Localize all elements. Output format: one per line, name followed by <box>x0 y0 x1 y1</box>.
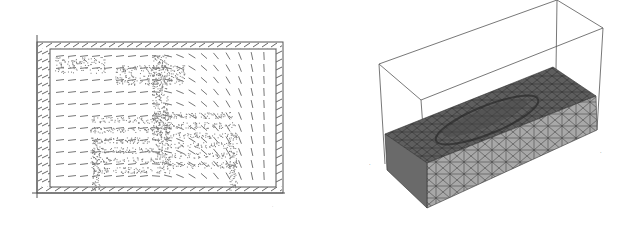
vector-field-panel: · <box>0 0 317 225</box>
mesh-panel: · · <box>317 0 634 225</box>
y-axis-mark: · <box>369 161 371 167</box>
vector-field-plot: · <box>0 0 317 225</box>
x-axis-mark: · <box>600 149 602 155</box>
mesh-plot: · · <box>317 0 634 225</box>
x-axis-mark: · <box>272 204 273 209</box>
